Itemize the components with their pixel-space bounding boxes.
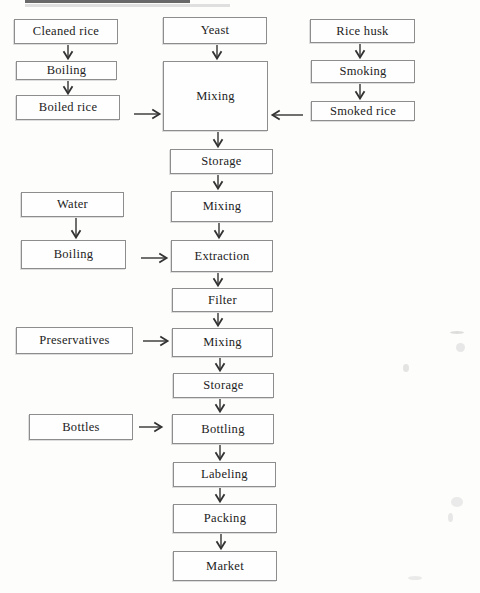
node-label: Bottles [62, 420, 100, 435]
node-label: Filter [208, 293, 237, 308]
node-label: Storage [203, 378, 243, 393]
node-filter: Filter [172, 288, 273, 312]
scan-speck [450, 331, 464, 334]
node-label: Mixing [203, 335, 242, 350]
node-label: Extraction [194, 249, 249, 264]
node-mixing-1: Mixing [163, 61, 268, 131]
flowchart-page: Cleaned rice Boiling Boiled rice Yeast M… [0, 0, 480, 593]
node-rice-husk: Rice husk [310, 19, 415, 43]
scan-speck [448, 513, 453, 522]
scan-artifact-smudge [25, 4, 230, 7]
scan-speck [451, 497, 463, 507]
node-label: Boiling [47, 63, 87, 78]
node-bottles: Bottles [29, 414, 133, 440]
node-yeast: Yeast [163, 17, 267, 44]
node-storage-2: Storage [173, 373, 274, 398]
node-cleaned-rice: Cleaned rice [14, 19, 118, 44]
node-storage-1: Storage [170, 149, 273, 174]
node-boiled-rice: Boiled rice [16, 95, 120, 120]
node-label: Smoked rice [330, 104, 396, 119]
node-label: Packing [204, 511, 246, 526]
node-label: Rice husk [336, 24, 388, 39]
node-extraction: Extraction [171, 240, 273, 272]
node-label: Labeling [201, 467, 248, 482]
node-label: Bottling [201, 422, 244, 437]
node-boiling-1: Boiling [16, 61, 117, 80]
node-label: Preservatives [39, 333, 110, 348]
node-preservatives: Preservatives [16, 327, 133, 354]
scan-speck [403, 364, 409, 372]
scan-artifact-topline [25, 0, 190, 3]
node-mixing-2: Mixing [171, 191, 273, 222]
node-label: Market [206, 559, 244, 574]
node-smoking: Smoking [311, 60, 415, 83]
node-labeling: Labeling [173, 462, 276, 487]
node-boiling-2: Boiling [21, 240, 126, 269]
node-packing: Packing [173, 504, 277, 533]
node-label: Yeast [201, 23, 230, 38]
node-label: Boiling [54, 247, 94, 262]
node-label: Storage [201, 154, 241, 169]
node-label: Smoking [339, 64, 386, 79]
node-bottling: Bottling [172, 414, 274, 444]
scan-speck [456, 343, 465, 352]
node-mixing-3: Mixing [172, 328, 273, 357]
node-label: Water [57, 197, 88, 212]
node-label: Cleaned rice [33, 24, 99, 39]
node-label: Mixing [196, 89, 235, 104]
node-water: Water [21, 192, 124, 217]
scan-speck [408, 576, 422, 580]
node-label: Boiled rice [39, 100, 98, 115]
node-smoked-rice: Smoked rice [311, 101, 415, 121]
node-market: Market [173, 551, 277, 581]
node-label: Mixing [203, 199, 242, 214]
